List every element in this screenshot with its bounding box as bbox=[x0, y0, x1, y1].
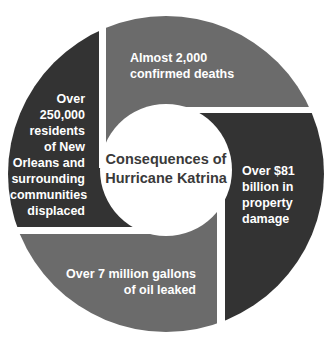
label-line: Orleans and bbox=[10, 155, 85, 171]
center-title-line: Consequences of bbox=[100, 150, 232, 169]
center-title: Consequences of Hurricane Katrina bbox=[100, 150, 232, 188]
label-line: confirmed deaths bbox=[130, 66, 234, 82]
center-title-line: Hurricane Katrina bbox=[100, 169, 232, 188]
label-line: surrounding bbox=[10, 171, 85, 187]
segment-bottom-label: Over 7 million gallons of oil leaked bbox=[60, 266, 196, 298]
label-line: property bbox=[242, 195, 295, 211]
segment-right-label: Over $81 billion in property damage bbox=[242, 163, 295, 227]
label-line: Almost 2,000 bbox=[130, 50, 234, 66]
segment-right bbox=[225, 113, 332, 345]
label-line: of oil leaked bbox=[60, 282, 196, 298]
label-line: billion in bbox=[242, 179, 295, 195]
label-line: 250,000 bbox=[10, 107, 85, 123]
label-line: communities bbox=[10, 187, 85, 203]
label-line: residents bbox=[10, 123, 85, 139]
segment-left-label: Over 250,000 residents of New Orleans an… bbox=[10, 91, 85, 219]
label-line: Over $81 bbox=[242, 163, 295, 179]
segment-top-label: Almost 2,000 confirmed deaths bbox=[130, 50, 234, 82]
label-line: damage bbox=[242, 211, 295, 227]
label-line: displaced bbox=[10, 203, 85, 219]
label-line: Over bbox=[10, 91, 85, 107]
label-line: Over 7 million gallons bbox=[60, 266, 196, 282]
label-line: of New bbox=[10, 139, 85, 155]
